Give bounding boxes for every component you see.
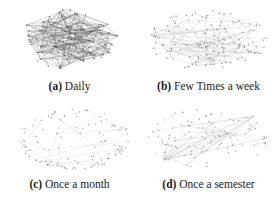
network-graph-daily <box>0 0 139 80</box>
panel-once-a-semester: (d) Once a semester <box>139 102 278 205</box>
caption-text: Few Times a week <box>174 80 260 92</box>
caption-label: (d) <box>162 178 176 190</box>
caption-few-times-a-week: (b) Few Times a week <box>139 80 278 92</box>
caption-text: Once a semester <box>179 178 254 190</box>
panel-few-times-a-week: (b) Few Times a week <box>139 0 278 100</box>
caption-daily: (a) Daily <box>0 80 139 92</box>
caption-label: (a) <box>49 80 62 92</box>
network-graph-once-a-month <box>0 102 139 178</box>
caption-text: Once a month <box>45 178 110 190</box>
panel-daily: (a) Daily <box>0 0 139 100</box>
panel-once-a-month: (c) Once a month <box>0 102 139 205</box>
caption-text: Daily <box>65 80 91 92</box>
network-graph-few-times-a-week <box>139 0 278 80</box>
caption-once-a-month: (c) Once a month <box>0 178 139 190</box>
caption-label: (b) <box>157 80 171 92</box>
network-graph-once-a-semester <box>139 102 278 178</box>
caption-label: (c) <box>29 178 42 190</box>
caption-once-a-semester: (d) Once a semester <box>139 178 278 190</box>
